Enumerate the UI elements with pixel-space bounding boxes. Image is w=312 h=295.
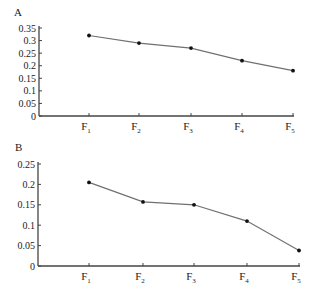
line-chart-b: 00.050.10.150.20.25F1F2F3F4F5 (0, 0, 312, 295)
y-tick-label: 0.2 (23, 179, 36, 190)
x-tick-label: F3 (186, 270, 196, 285)
y-tick-label: 0 (30, 261, 35, 272)
data-point-marker (245, 219, 249, 223)
data-point-marker (141, 200, 145, 204)
x-tick-label: F4 (239, 270, 249, 285)
x-tick-label: F2 (135, 270, 145, 285)
data-point-marker (192, 203, 196, 207)
y-tick-label: 0.05 (18, 240, 36, 251)
x-tick-label: F1 (81, 270, 91, 285)
y-tick-label: 0.25 (18, 159, 36, 170)
y-tick-label: 0.15 (18, 199, 36, 210)
data-point-marker (297, 249, 301, 253)
y-tick-label: 0.1 (23, 220, 36, 231)
data-point-marker (87, 181, 91, 185)
x-tick-label: F5 (291, 270, 301, 285)
data-line (89, 182, 299, 250)
